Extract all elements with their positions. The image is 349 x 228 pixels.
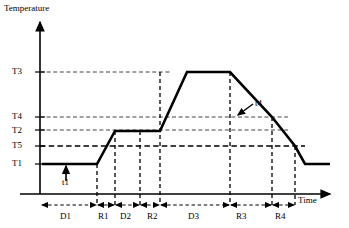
t4-arrow: [238, 104, 253, 115]
y-tick-label-T3: T3: [12, 67, 22, 76]
annotation-label-t1: t1: [62, 178, 69, 187]
y-tick-label-T2: T2: [12, 126, 22, 135]
x-segment-label-D1: D1: [60, 212, 71, 221]
x-segment-label-R1: R1: [98, 212, 109, 221]
x-segment-label-R2: R2: [147, 212, 158, 221]
diagram-canvas: [0, 0, 349, 228]
y-axis-title: Temperature: [4, 4, 49, 13]
y-tick-label-T1: T1: [12, 159, 22, 168]
x-segment-label-R4: R4: [275, 212, 286, 221]
annotation-label-t4: t4: [255, 99, 262, 108]
temperature-time-diagram: Temperature Time T3 T4 T2 T5 T1 t1 t4 D1…: [0, 0, 349, 228]
x-segment-label-R3: R3: [236, 212, 247, 221]
y-tick-label-T4: T4: [12, 112, 22, 121]
y-tick-label-T5: T5: [12, 141, 22, 150]
temperature-profile-curve: [42, 72, 330, 164]
x-axis-title: Time: [298, 196, 317, 205]
x-segment-label-D3: D3: [188, 212, 199, 221]
x-segment-label-D2: D2: [120, 212, 131, 221]
